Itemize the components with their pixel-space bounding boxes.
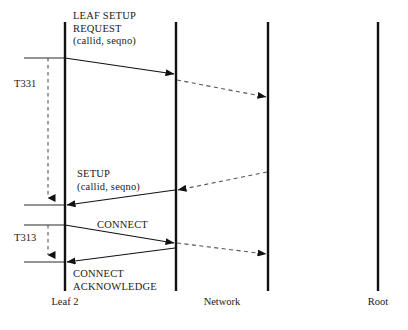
message-label-line: LEAF SETUP: [73, 10, 136, 23]
message-label-connect: CONNECT: [97, 219, 148, 232]
message-label-line: ACKNOWLEDGE: [73, 281, 157, 294]
message-label-leaf-setup-request: LEAF SETUPREQUEST(callid, seqno): [73, 10, 136, 48]
timer-label-T331: T331: [14, 78, 36, 89]
message-label-line: SETUP: [77, 168, 140, 181]
message-arrow-leaf-setup-request: [65, 58, 174, 74]
actor-label-leaf2: Leaf 2: [51, 296, 78, 307]
message-label-setup: SETUP(callid, seqno): [77, 168, 140, 193]
diagram-svg: [0, 0, 408, 330]
message-arrow-connect-acknowledge: [67, 248, 175, 262]
messages-group: [65, 58, 267, 262]
message-arrow-setup-response-relay: [178, 172, 267, 190]
group-label-network: Network: [204, 296, 241, 307]
sequence-diagram-canvas: Leaf 2RootNetworkT331T313LEAF SETUPREQUE…: [0, 0, 408, 330]
message-label-line: CONNECT: [73, 268, 157, 281]
timer-label-T313: T313: [14, 232, 36, 243]
message-label-line: (callid, seqno): [73, 35, 136, 48]
message-label-line: REQUEST: [73, 23, 136, 36]
lifelines-group: [65, 22, 378, 291]
actor-label-root: Root: [368, 296, 388, 307]
message-label-line: CONNECT: [97, 219, 148, 232]
message-arrow-setup-request-relay: [177, 80, 266, 97]
message-arrow-connect-relay: [177, 243, 266, 254]
message-label-connect-acknowledge: CONNECTACKNOWLEDGE: [73, 268, 157, 293]
message-label-line: (callid, seqno): [77, 181, 140, 194]
